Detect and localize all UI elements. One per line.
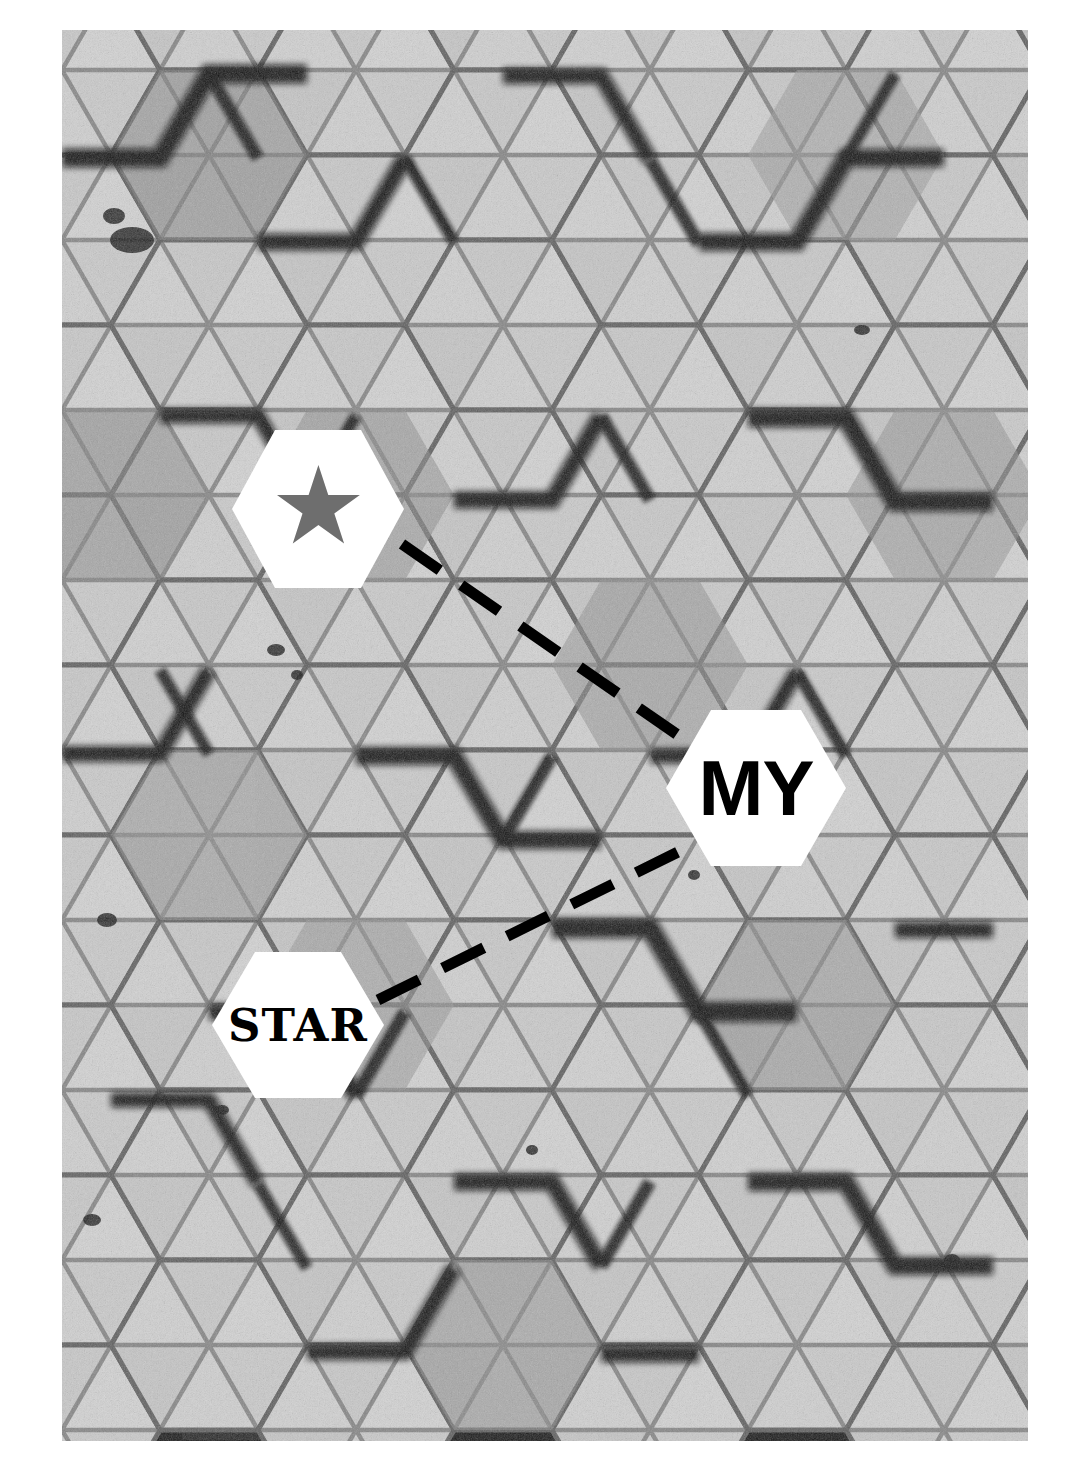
callout-star-symbol[interactable]: ★	[232, 430, 404, 588]
star-icon: ★	[270, 452, 367, 560]
photograph-plate	[62, 30, 1028, 1441]
callout-star-word[interactable]: STAR	[212, 952, 384, 1098]
page-root: ★ MY STAR	[0, 0, 1071, 1473]
callout-label-my: MY	[699, 749, 814, 827]
hexagonal-array-photograph	[62, 30, 1028, 1441]
callout-my[interactable]: MY	[666, 710, 846, 866]
callout-label-star: STAR	[228, 1003, 368, 1048]
